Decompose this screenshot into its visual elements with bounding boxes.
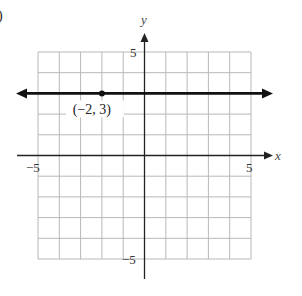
line-right-arrow-icon bbox=[262, 88, 273, 98]
y-tick-label-neg5: −5 bbox=[122, 252, 136, 267]
coordinate-plane: ) (−2, 3)xy−555−5 bbox=[0, 0, 302, 296]
y-axis-arrow-icon bbox=[141, 33, 149, 42]
axes bbox=[17, 33, 273, 279]
point-label: (−2, 3) bbox=[73, 102, 112, 118]
line-left-arrow-icon bbox=[16, 88, 27, 98]
x-axis-label: x bbox=[274, 148, 281, 163]
labels: (−2, 3)xy−555−5 bbox=[26, 12, 281, 267]
x-tick-label-5: 5 bbox=[246, 160, 253, 175]
y-axis-label: y bbox=[139, 12, 147, 27]
x-tick-label-neg5: −5 bbox=[26, 160, 40, 175]
panel-label-fragment: ) bbox=[0, 8, 3, 24]
x-axis-arrow-icon bbox=[264, 152, 273, 160]
y-tick-label-5: 5 bbox=[130, 45, 137, 60]
point-marker bbox=[99, 90, 105, 96]
